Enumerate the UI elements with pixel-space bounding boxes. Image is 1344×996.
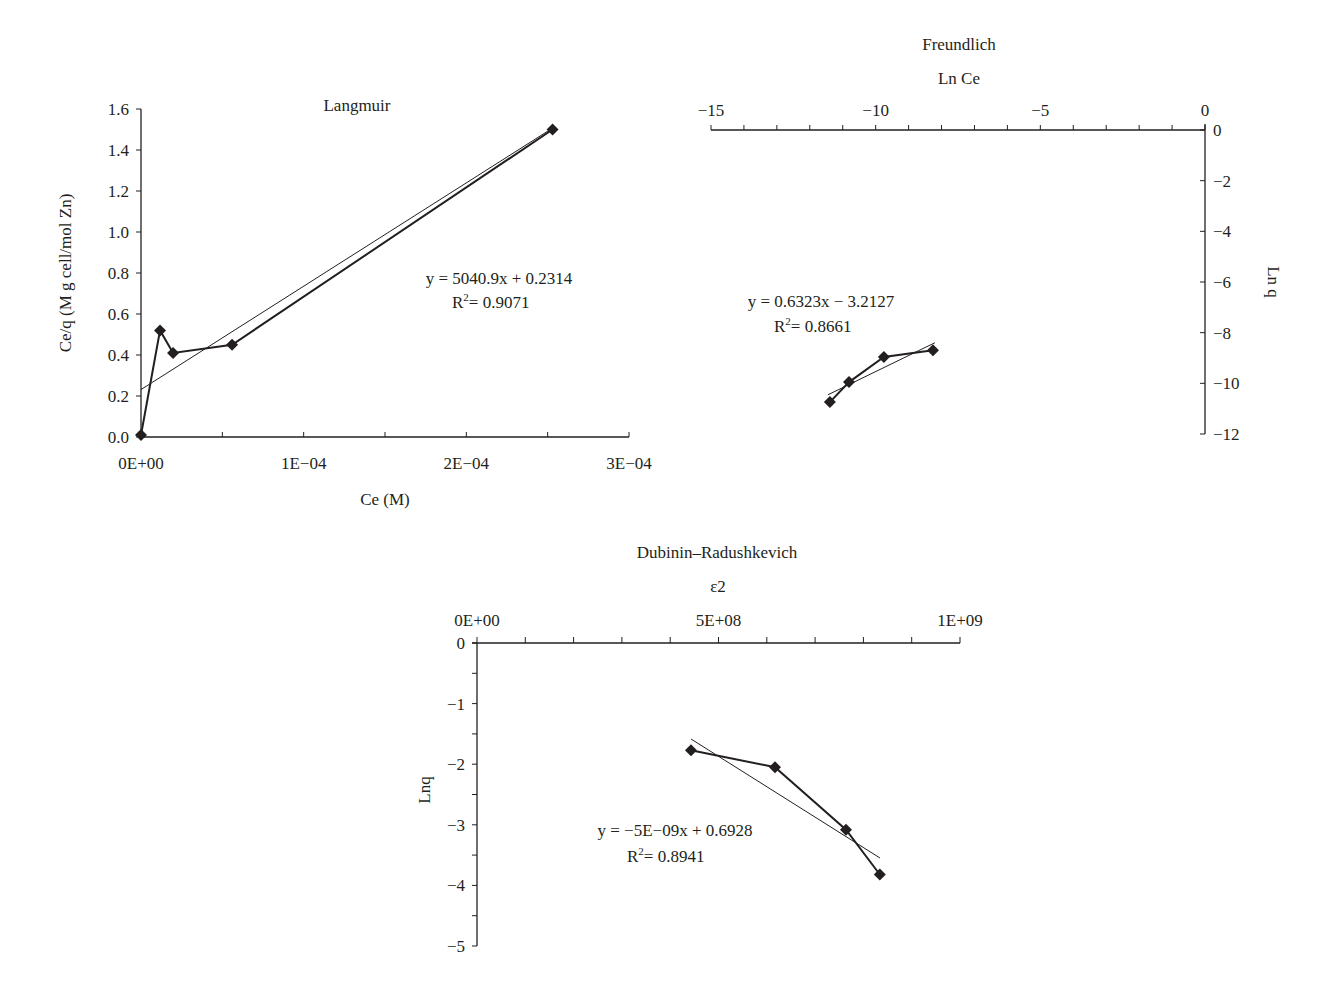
dr-y-label: Lnq xyxy=(415,776,434,804)
langmuir-x-tick-label: 1E−04 xyxy=(281,454,327,473)
dr-x-label: ε2 xyxy=(710,577,726,596)
freundlich-y-tick-label: 0 xyxy=(1213,121,1222,140)
dr-x-tick-label: 0E+00 xyxy=(454,611,499,630)
langmuir-title: Langmuir xyxy=(323,96,390,115)
freundlich-chart: Freundlich Ln Ce Ln q −15−10−500−2−4−6−8… xyxy=(698,35,1283,444)
freundlich-x-tick-label: −15 xyxy=(698,101,725,120)
dr-y-tick-label: −3 xyxy=(447,816,465,835)
freundlich-x-label: Ln Ce xyxy=(938,69,980,88)
langmuir-y-tick-label: 1.4 xyxy=(108,141,130,160)
freundlich-r2-value: = 0.8661 xyxy=(791,317,852,336)
freundlich-y-tick-label: −8 xyxy=(1213,324,1231,343)
dr-x-tick-label: 5E+08 xyxy=(696,611,741,630)
dr-data-point xyxy=(685,744,697,756)
freundlich-x-tick-label: −5 xyxy=(1031,101,1049,120)
freundlich-y-tick-label: −12 xyxy=(1213,425,1240,444)
dr-data-line xyxy=(691,750,880,874)
langmuir-y-tick-label: 0.8 xyxy=(108,264,129,283)
freundlich-y-tick-label: −4 xyxy=(1213,222,1232,241)
langmuir-x-tick-label: 2E−04 xyxy=(444,454,490,473)
dr-r2: R2= 0.8941 xyxy=(627,845,704,866)
dr-equation: y = −5E−09x + 0.6928 xyxy=(598,821,753,840)
dr-y-tick-label: 0 xyxy=(457,634,466,653)
freundlich-equation: y = 0.6323x − 3.2127 xyxy=(748,292,895,311)
freundlich-x-tick-label: −10 xyxy=(862,101,889,120)
langmuir-r2-value: = 0.9071 xyxy=(469,293,530,312)
freundlich-plot-area xyxy=(824,343,939,408)
langmuir-y-tick-label: 1.0 xyxy=(108,223,129,242)
dr-axes: 0E+005E+081E+090−1−2−3−4−5 xyxy=(447,611,983,956)
langmuir-equation: y = 5040.9x + 0.2314 xyxy=(426,269,573,288)
langmuir-data-point xyxy=(547,124,559,136)
freundlich-r2: R2= 0.8661 xyxy=(774,315,851,336)
langmuir-data-point xyxy=(154,324,166,336)
langmuir-y-tick-label: 0.4 xyxy=(108,346,130,365)
freundlich-x-tick-label: 0 xyxy=(1201,101,1210,120)
dr-y-tick-label: −5 xyxy=(447,937,465,956)
dr-r2-value: = 0.8941 xyxy=(644,847,705,866)
langmuir-data-point xyxy=(167,347,179,359)
dr-y-tick-label: −4 xyxy=(447,876,466,895)
langmuir-y-tick-label: 1.6 xyxy=(108,100,129,119)
freundlich-title: Freundlich xyxy=(922,35,996,54)
dubinin-radushkevich-chart: Dubinin–Radushkevich ε2 Lnq 0E+005E+081E… xyxy=(415,543,983,956)
langmuir-trendline xyxy=(141,128,553,389)
dr-x-tick-label: 1E+09 xyxy=(937,611,982,630)
langmuir-x-tick-label: 0E+00 xyxy=(118,454,163,473)
freundlich-y-tick-label: −2 xyxy=(1213,172,1231,191)
dr-plot-area xyxy=(685,739,886,880)
langmuir-r2: R2= 0.9071 xyxy=(452,291,529,312)
langmuir-data-point xyxy=(135,429,147,441)
figure-canvas: Langmuir 0E+001E−042E−043E−040.00.20.40.… xyxy=(0,0,1344,996)
dr-y-tick-label: −2 xyxy=(447,755,465,774)
freundlich-y-tick-label: −6 xyxy=(1213,273,1231,292)
langmuir-y-label: Ce/q (M g cell/mol Zn) xyxy=(56,194,75,353)
langmuir-y-tick-label: 1.2 xyxy=(108,182,129,201)
langmuir-y-tick-label: 0.6 xyxy=(108,305,129,324)
freundlich-axes: −15−10−500−2−4−6−8−10−12 xyxy=(698,101,1240,444)
langmuir-r2-prefix: R2= 0.9071 xyxy=(452,291,529,312)
langmuir-x-label: Ce (M) xyxy=(360,490,410,509)
langmuir-chart: Langmuir 0E+001E−042E−043E−040.00.20.40.… xyxy=(56,96,652,509)
dr-title: Dubinin–Radushkevich xyxy=(637,543,798,562)
langmuir-y-tick-label: 0.2 xyxy=(108,387,129,406)
langmuir-data-point xyxy=(226,339,238,351)
dr-y-tick-label: −1 xyxy=(447,695,465,714)
langmuir-x-tick-label: 3E−04 xyxy=(606,454,652,473)
freundlich-y-tick-label: −10 xyxy=(1213,374,1240,393)
freundlich-y-label: Ln q xyxy=(1264,266,1283,298)
langmuir-y-tick-label: 0.0 xyxy=(108,428,129,447)
